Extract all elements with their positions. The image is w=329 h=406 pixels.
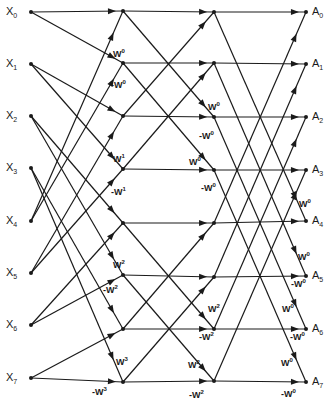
node-dot — [212, 379, 216, 383]
arrow-icon — [199, 60, 207, 66]
input-label: X1 — [6, 57, 17, 71]
node-dot — [304, 62, 308, 66]
node-dot — [29, 10, 33, 14]
node-dot — [121, 327, 125, 331]
input-label: X3 — [6, 161, 17, 175]
arrow-icon — [108, 351, 117, 361]
twiddle-factor-label: W1 — [113, 153, 126, 164]
arrow-icon — [291, 61, 299, 67]
node-dot — [29, 62, 33, 66]
twiddle-factor-label: W0 — [298, 251, 311, 262]
twiddle-factor-label: -W0 — [291, 278, 307, 289]
arrow-icon — [199, 220, 207, 226]
twiddle-factor-label: W2 — [113, 259, 126, 270]
input-labels-group: X0X1X2X3X4X5X6X7 — [6, 5, 17, 385]
node-dot — [121, 380, 125, 384]
arrow-icon — [199, 167, 207, 173]
node-dot — [121, 273, 125, 277]
output-label: A2 — [312, 110, 323, 124]
arrow-icon — [291, 379, 299, 385]
output-label: A6 — [312, 322, 323, 336]
arrow-icon — [291, 85, 300, 95]
twiddle-factor-label: W0 — [189, 156, 202, 167]
output-label: A3 — [312, 163, 323, 177]
arrow-icon — [107, 130, 116, 140]
twiddle-factor-label: -W0 — [290, 331, 306, 342]
arrow-icon — [291, 167, 299, 173]
node-dot — [212, 61, 216, 65]
output-label: A0 — [312, 5, 323, 19]
input-label: X5 — [6, 266, 17, 280]
output-label: A1 — [312, 57, 323, 71]
twiddle-factor-label: -W0 — [281, 388, 297, 399]
twiddle-factor-label: W0 — [282, 303, 295, 314]
edges-group — [31, 8, 306, 385]
node-dot — [121, 167, 125, 171]
twiddle-factor-label: -W1 — [111, 186, 127, 197]
twiddle-factor-label: W2 — [208, 303, 221, 314]
twiddle-factor-label: -W2 — [103, 284, 119, 295]
arrow-icon — [199, 378, 207, 384]
twiddle-factor-label: W0 — [281, 357, 294, 368]
output-label: A5 — [312, 269, 323, 283]
flow-edge — [31, 64, 123, 169]
twiddle-factor-label: -W0 — [199, 130, 215, 141]
input-label: X4 — [6, 214, 17, 228]
twiddle-factor-label: W0 — [113, 48, 126, 59]
flow-edge — [31, 169, 123, 273]
twiddle-factor-label: -W2 — [199, 331, 215, 342]
arrow-icon — [107, 305, 116, 315]
twiddle-factor-label: -W2 — [189, 389, 205, 400]
node-dot — [121, 61, 125, 65]
arrow-icon — [199, 114, 207, 120]
twiddle-factor-label: W0 — [299, 198, 312, 209]
output-labels-group: A0A1A2A3A4A5A6A7 — [312, 5, 323, 389]
node-dot — [29, 219, 33, 223]
node-dot — [29, 323, 33, 327]
arrow-icon — [108, 31, 117, 41]
node-dot — [121, 9, 125, 13]
arrow-icon — [199, 9, 207, 15]
node-dot — [304, 380, 308, 384]
node-dot — [304, 115, 308, 119]
node-dot — [304, 168, 308, 172]
node-dot — [212, 221, 216, 225]
input-label: X7 — [6, 371, 17, 385]
node-dot — [121, 114, 125, 118]
node-dot — [304, 219, 308, 223]
arrow-icon — [199, 274, 207, 280]
twiddle-factor-label: W0 — [208, 101, 221, 112]
twiddle-factor-label: -W0 — [201, 182, 217, 193]
twiddle-factor-label: W2 — [188, 359, 201, 370]
arrow-icon — [108, 378, 116, 384]
arrow-icon — [291, 218, 299, 224]
node-dot — [212, 115, 216, 119]
arrow-icon — [108, 8, 116, 14]
output-label: A4 — [312, 214, 323, 228]
node-dot — [212, 275, 216, 279]
arrow-icon — [107, 105, 117, 114]
flow-edge — [31, 168, 123, 382]
arrow-icon — [291, 138, 300, 148]
fft-flow-graph: X0X1X2X3X4X5X6X7 A0A1A2A3A4A5A6A7 W0-W0W… — [0, 0, 329, 406]
arrow-icon — [291, 114, 299, 120]
node-dot — [121, 221, 125, 225]
node-dot — [29, 166, 33, 170]
node-dot — [212, 10, 216, 14]
input-label: X0 — [6, 5, 17, 19]
output-label: A7 — [312, 375, 323, 389]
arrow-icon — [291, 32, 300, 42]
twiddle-factor-label: -W3 — [92, 386, 108, 397]
node-dot — [212, 168, 216, 172]
node-dot — [29, 271, 33, 275]
twiddle-factor-label: -W0 — [111, 79, 127, 90]
twiddle-factor-label: W3 — [116, 356, 129, 367]
node-dot — [304, 10, 308, 14]
arrow-icon — [107, 330, 117, 339]
node-dot — [29, 114, 33, 118]
flow-edge — [31, 116, 123, 223]
arrow-icon — [291, 9, 299, 15]
input-label: X6 — [6, 318, 17, 332]
node-dot — [29, 376, 33, 380]
flow-edge — [31, 63, 123, 221]
